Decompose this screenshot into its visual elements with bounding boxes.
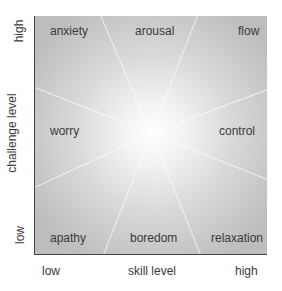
region-anxiety: anxiety [50,24,88,38]
y-axis-title: challenge level [5,93,19,172]
x-axis-title: skill level [128,264,176,278]
y-axis-low-label: low [13,226,27,244]
region-apathy: apathy [50,231,86,245]
x-axis-high-label: high [235,264,258,278]
region-flow: flow [238,24,259,38]
region-worry: worry [50,124,79,138]
x-axis-low-label: low [42,264,60,278]
region-relaxation: relaxation [211,231,263,245]
y-axis-high-label: high [12,20,26,43]
region-boredom: boredom [130,231,177,245]
region-arousal: arousal [135,24,174,38]
plot-area: anxiety arousal flow worry control apath… [34,16,267,255]
region-control: control [219,124,255,138]
